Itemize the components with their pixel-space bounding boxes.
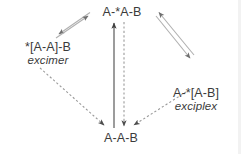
node-bottom-formula: A-A-B (78, 131, 164, 145)
node-right-formula: A-*[A-B] (152, 86, 240, 100)
node-exciplex: A-*[A-B] exciplex (152, 86, 240, 113)
node-left-caption: excimer (5, 54, 91, 67)
edge-top-to-right (156, 16, 190, 58)
right-edge-band (238, 0, 241, 154)
edge-left-to-bottom-decay (40, 68, 104, 125)
edge-left-to-top (56, 16, 88, 38)
node-right-caption: exciplex (152, 100, 240, 113)
photophysical-state-diagram: A-*A-B *[A-A]-B excimer A-*[A-B] exciple… (0, 0, 241, 154)
node-excited-monomer: A-*A-B (76, 5, 168, 19)
node-top-formula: A-*A-B (76, 5, 168, 19)
node-left-formula: *[A-A]-B (5, 40, 91, 54)
node-excimer: *[A-A]-B excimer (5, 40, 91, 67)
node-ground-state: A-A-B (78, 131, 164, 145)
